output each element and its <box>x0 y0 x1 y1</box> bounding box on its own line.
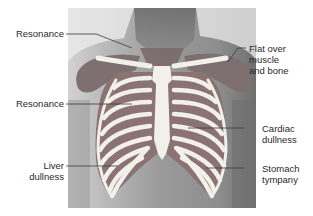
label-liver-dullness: Liver dullness <box>6 160 64 182</box>
label-stomach-tympany: Stomach tympany <box>262 163 312 185</box>
label-cardiac-dullness: Cardiac dullness <box>262 123 312 145</box>
label-resonance-mid: Resonance <box>6 98 64 109</box>
label-resonance-upper: Resonance <box>6 28 64 39</box>
chest-percussion-diagram: Resonance Flat over muscle and bone Reso… <box>0 0 313 216</box>
label-flat-over-muscle-and-bone: Flat over muscle and bone <box>249 43 311 76</box>
